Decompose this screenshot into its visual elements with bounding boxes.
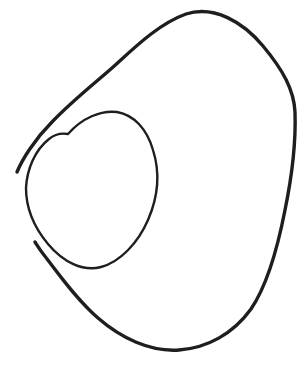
figure-canvas (0, 0, 304, 380)
line-drawing-svg (0, 0, 304, 380)
canvas-background (0, 0, 304, 380)
